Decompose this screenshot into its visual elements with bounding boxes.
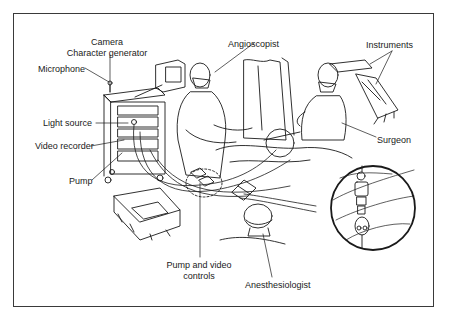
equipment-cart-icon xyxy=(104,88,165,183)
label-pump-and-video-controls: Pump and video xyxy=(166,260,231,270)
scope-loop xyxy=(264,129,300,157)
label-pump: Pump xyxy=(69,176,93,186)
label-camera: Camera xyxy=(91,37,123,47)
angioscope-tip-icon xyxy=(355,166,369,248)
magnified-inset xyxy=(331,166,415,250)
label-video-recorder: Video recorder xyxy=(35,141,94,151)
label-controls: controls xyxy=(183,271,215,281)
basin-stand xyxy=(114,188,180,240)
patient-body xyxy=(216,145,352,162)
label-surgeon: Surgeon xyxy=(377,135,411,145)
cables xyxy=(134,125,316,212)
instrument-trays xyxy=(330,60,398,124)
monitor-icon xyxy=(135,60,185,97)
leader-lines xyxy=(85,43,392,277)
label-angioscopist: Angioscopist xyxy=(228,39,279,49)
label-instruments: Instruments xyxy=(366,40,413,50)
label-anesthesiologist: Anesthesiologist xyxy=(245,280,311,290)
label-character-generator: Character generator xyxy=(67,48,148,58)
label-light-source: Light source xyxy=(43,118,92,128)
surgeon-figure xyxy=(297,63,346,140)
label-microphone: Microphone xyxy=(38,64,85,74)
anesthesiologist-figure xyxy=(220,180,285,244)
